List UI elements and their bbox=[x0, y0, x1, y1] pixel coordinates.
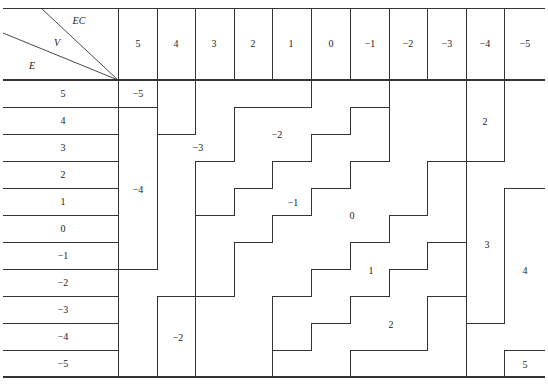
column-header-ec: 0 bbox=[329, 39, 334, 49]
region-label: 0 bbox=[350, 211, 355, 221]
region-label: −3 bbox=[193, 143, 204, 153]
row-header-e: −5 bbox=[58, 359, 69, 369]
region-label: 3 bbox=[485, 240, 490, 250]
region-label: −5 bbox=[133, 89, 144, 99]
corner-label-e: E bbox=[29, 61, 35, 71]
region-label: 2 bbox=[389, 320, 394, 330]
region-label: −2 bbox=[173, 333, 184, 343]
row-header-e: 3 bbox=[61, 143, 66, 153]
region-label: −4 bbox=[133, 185, 144, 195]
region-label: −1 bbox=[288, 198, 299, 208]
corner-label-ec: EC bbox=[73, 16, 86, 26]
region-label: 2 bbox=[483, 117, 488, 127]
corner-label-v: V bbox=[54, 38, 60, 48]
region-label: 1 bbox=[369, 266, 374, 276]
row-header-e: 4 bbox=[61, 116, 66, 126]
column-header-ec: −2 bbox=[403, 39, 414, 49]
column-header-ec: −3 bbox=[442, 39, 453, 49]
region-label: 5 bbox=[523, 360, 528, 370]
row-header-e: −3 bbox=[58, 305, 69, 315]
row-header-e: 1 bbox=[61, 197, 66, 207]
row-header-e: 2 bbox=[61, 170, 66, 180]
column-header-ec: 4 bbox=[174, 39, 179, 49]
row-header-e: −2 bbox=[58, 278, 69, 288]
row-header-e: −4 bbox=[58, 332, 69, 342]
column-header-ec: 3 bbox=[212, 39, 217, 49]
column-header-ec: 5 bbox=[136, 39, 141, 49]
row-header-e: 0 bbox=[61, 224, 66, 234]
table-grid-lines bbox=[0, 0, 548, 386]
region-label: 4 bbox=[523, 266, 528, 276]
column-header-ec: −5 bbox=[520, 39, 531, 49]
column-header-ec: 2 bbox=[251, 39, 256, 49]
column-header-ec: 1 bbox=[289, 39, 294, 49]
column-header-ec: −1 bbox=[365, 39, 376, 49]
row-header-e: −1 bbox=[58, 251, 69, 261]
column-header-ec: −4 bbox=[480, 39, 491, 49]
region-label: −2 bbox=[272, 130, 283, 140]
fuzzy-control-rule-table: EC V E 5 4 3 2 1 0 −1 −2 −3 −4 −5 5 4 3 … bbox=[0, 0, 548, 386]
row-header-e: 5 bbox=[61, 89, 66, 99]
